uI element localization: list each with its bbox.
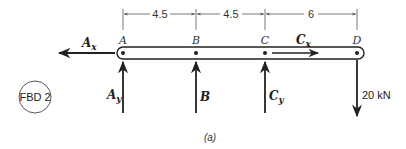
force-label-cy: Cy [269,89,285,105]
point-label-d: D [352,34,362,47]
point-label-a: A [118,34,127,47]
force-label-ax: Ax [81,36,97,52]
force-label-cx: Cx [296,33,312,49]
force-label-load: 20 kN [362,89,391,101]
force-label-ay: Ay [106,88,122,104]
free-body-diagram: 4.5 4.5 6 A B C D Ax Cx Ay B Cy 20 kN FB… [0,0,406,149]
fbd-badge-label: FBD 2 [19,91,50,103]
point-label-c: C [261,34,270,47]
dimension-label-ab: 4.5 [152,8,167,20]
dimension-label-bc: 4.5 [223,8,238,20]
figure-caption: (a) [204,132,216,143]
beam [117,47,364,59]
force-label-b: B [199,90,210,104]
point-label-b: B [191,34,200,47]
dimension-label-cd: 6 [308,8,314,20]
